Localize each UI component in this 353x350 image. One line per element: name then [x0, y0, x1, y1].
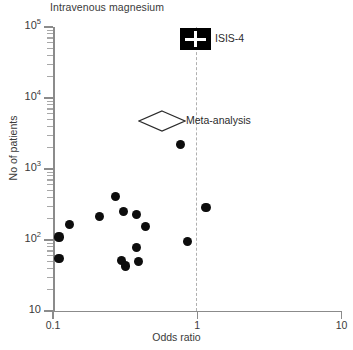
y-tick-minor: [47, 48, 53, 49]
y-tick-minor: [47, 147, 53, 148]
y-tick-minor: [47, 175, 53, 176]
y-tick-label: 104: [25, 90, 41, 102]
data-point: [111, 192, 120, 201]
y-tick-minor: [47, 277, 53, 278]
y-tick-major: [44, 239, 53, 240]
y-tick-minor: [47, 108, 53, 109]
y-tick-major: [44, 168, 53, 169]
data-point: [176, 140, 185, 149]
y-tick-minor: [47, 64, 53, 65]
data-point: [134, 257, 143, 266]
y-tick-minor: [47, 76, 53, 77]
y-axis-title: No of patients: [7, 104, 19, 192]
y-tick-minor: [47, 55, 53, 56]
y-tick-minor: [47, 30, 53, 31]
data-point: [132, 210, 141, 219]
plus-icon-vertical: [194, 31, 197, 47]
isis4-label: ISIS-4: [215, 32, 244, 44]
chart-title: Intravenous magnesium: [50, 1, 164, 13]
y-tick-minor: [47, 184, 53, 185]
x-axis-title: Odds ratio: [0, 331, 353, 343]
y-tick-label: 102: [25, 232, 41, 244]
y-tick-minor: [47, 126, 53, 127]
y-tick-minor: [47, 37, 53, 38]
y-tick-minor: [47, 101, 53, 102]
data-point: [54, 254, 63, 263]
y-tick-minor: [47, 206, 53, 207]
x-tick-label: 0.1: [28, 319, 78, 331]
x-tick-major: [197, 311, 198, 319]
y-tick-minor: [47, 197, 53, 198]
data-point: [141, 222, 150, 231]
y-tick-label: 103: [25, 161, 41, 173]
data-point: [119, 207, 128, 216]
y-tick-minor: [47, 179, 53, 180]
y-tick-minor: [47, 289, 53, 290]
y-tick-minor: [47, 268, 53, 269]
data-point: [65, 220, 74, 229]
y-tick-minor: [47, 119, 53, 120]
y-tick-minor: [47, 250, 53, 251]
y-tick-minor: [47, 42, 53, 43]
y-tick-label: 105: [25, 19, 41, 31]
y-tick-minor: [47, 246, 53, 247]
data-point: [201, 203, 210, 212]
x-tick-major: [341, 311, 342, 319]
scatter-plot-figure: Intravenous magnesium 10510410310210 0.1…: [0, 0, 353, 350]
data-point: [95, 212, 104, 221]
y-tick-minor: [47, 255, 53, 256]
y-tick-minor: [47, 33, 53, 34]
y-tick-minor: [47, 190, 53, 191]
y-tick-minor: [47, 135, 53, 136]
data-point: [132, 243, 141, 252]
y-tick-minor: [47, 104, 53, 105]
meta-analysis-diamond-icon: [138, 110, 186, 132]
y-tick-label: 10: [29, 303, 41, 315]
y-tick-minor: [47, 113, 53, 114]
meta-analysis-label: Meta-analysis: [186, 114, 251, 126]
y-tick-major: [44, 97, 53, 98]
reference-line-or-1: [196, 27, 197, 311]
data-point: [54, 232, 63, 241]
y-tick-major: [44, 26, 53, 27]
y-tick-minor: [47, 218, 53, 219]
x-tick-major: [52, 311, 53, 319]
data-point: [183, 237, 192, 246]
isis4-marker: [180, 28, 211, 50]
y-axis-line: [53, 27, 55, 312]
y-tick-minor: [47, 243, 53, 244]
y-tick-minor: [47, 261, 53, 262]
x-tick-label: 10: [317, 319, 353, 331]
x-tick-label: 1: [172, 319, 222, 331]
data-point: [121, 261, 130, 270]
y-tick-minor: [47, 172, 53, 173]
